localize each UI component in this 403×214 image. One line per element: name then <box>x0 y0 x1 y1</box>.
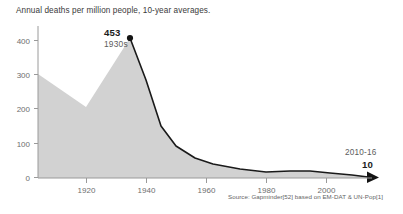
source-note: Source: Gapminder[52] based on EM-DAT & … <box>228 193 383 200</box>
y-tick-label-400: 400 <box>17 37 31 46</box>
area-series-deaths <box>38 38 370 178</box>
y-tick-label-200: 200 <box>17 105 31 114</box>
y-tick-label-100: 100 <box>17 140 31 149</box>
peak-annotation-value: 453 <box>104 27 121 38</box>
chart-container: Annual deaths per million people, 10-yea… <box>0 0 403 214</box>
x-tick-label-1960: 1960 <box>198 186 216 195</box>
series-end-arrow-icon <box>367 172 379 184</box>
chart-plot-area: 400 300 200 100 0 1920 1940 1960 1980 20… <box>0 0 403 214</box>
y-tick-label-0: 0 <box>26 174 31 183</box>
end-annotation-value: 10 <box>362 159 373 170</box>
y-tick-label-300: 300 <box>17 71 31 80</box>
peak-annotation-period: 1930s <box>104 39 128 49</box>
peak-marker-dot <box>127 35 133 41</box>
x-tick-label-1920: 1920 <box>78 186 96 195</box>
x-tick-label-1940: 1940 <box>138 186 156 195</box>
end-annotation-period: 2010-16 <box>345 148 376 157</box>
